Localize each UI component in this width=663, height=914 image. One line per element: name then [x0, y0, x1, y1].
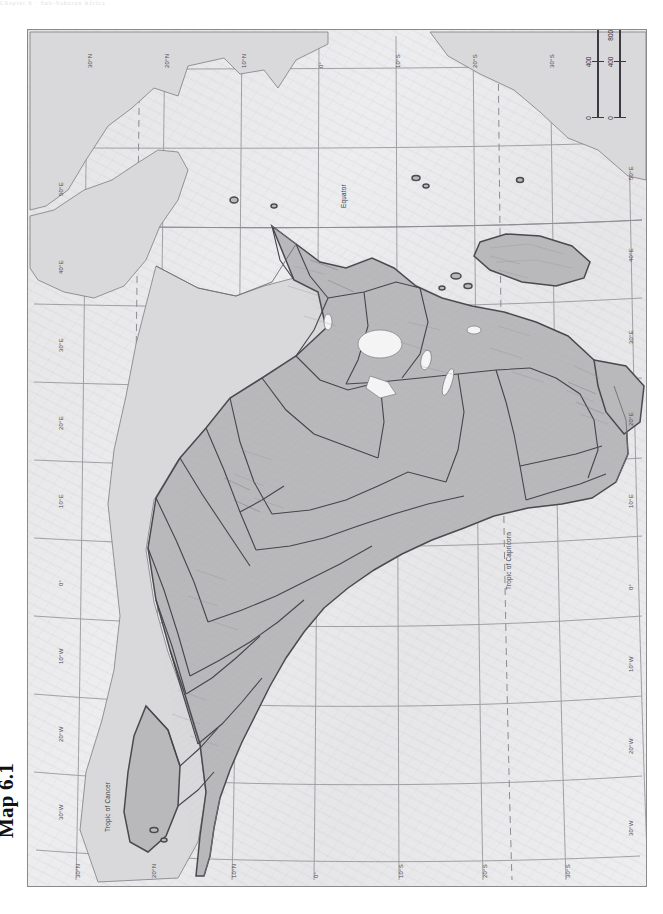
- figure-title: Map 6.1: [0, 718, 20, 838]
- lon-label-50e-right: 50°E: [628, 166, 634, 180]
- scale-bar-miles-line: [597, 29, 599, 118]
- scale-label-km-0: 0: [607, 116, 614, 120]
- lat-label-10n: 10°N: [241, 54, 247, 68]
- lon-label-10w-right: 10°W: [628, 656, 634, 672]
- label-equator: Equator: [340, 184, 347, 208]
- lon-label-10w: 10°W: [58, 648, 64, 664]
- lat-label-10n-bottom: 10°N: [231, 864, 237, 878]
- lon-label-0: 0°: [58, 580, 64, 586]
- lon-label-10e-right: 10°E: [628, 494, 634, 508]
- map-graticule-and-geography: [28, 30, 646, 886]
- scale-tick-miles-400: [592, 61, 604, 62]
- lat-label-10s-bottom: 10°S: [398, 864, 404, 878]
- label-tropic-of-cancer: Tropic of Cancer: [104, 782, 111, 832]
- scale-bar-km-line: [619, 29, 621, 118]
- scale-label-miles-400: 400: [585, 57, 592, 68]
- page-running-header: Chapter 6 · Sub-Saharan Africa: [0, 0, 663, 13]
- scale-label-miles-0: 0: [585, 116, 592, 120]
- lat-label-20n: 20°N: [164, 54, 170, 68]
- lat-label-30n: 30°N: [87, 54, 93, 68]
- lon-label-30e: 30°E: [58, 338, 64, 352]
- lon-label-20w: 20°W: [58, 726, 64, 742]
- lat-label-20n-bottom: 20°N: [151, 864, 157, 878]
- lon-label-40e: 40°E: [58, 260, 64, 274]
- scale-bar: 0 400 800 Miles 0 400 800 Kilometers: [588, 29, 630, 118]
- lat-label-0: 0°: [318, 62, 324, 68]
- scale-label-km-unit: 800 Kilometers: [607, 29, 614, 41]
- lon-label-50e: 50°E: [58, 182, 64, 196]
- lon-label-40e-right: 40°E: [628, 248, 634, 262]
- lat-label-30s-bottom: 30°S: [565, 864, 571, 878]
- scale-tick-km-400: [614, 61, 626, 62]
- lat-label-20s-bottom: 20°S: [482, 864, 488, 878]
- lon-label-0-right: 0°: [628, 584, 634, 590]
- lon-label-30e-right: 30°E: [628, 330, 634, 344]
- map-frame: Equator Tropic of Capricorn Tropic of Ca…: [27, 29, 647, 887]
- lon-label-30w-right: 30°W: [628, 820, 634, 836]
- lat-label-30n-bottom: 30°N: [75, 864, 81, 878]
- label-tropic-of-capricorn: Tropic of Capricorn: [505, 532, 512, 590]
- lat-label-10s: 10°S: [395, 54, 401, 68]
- lon-label-30w: 30°W: [58, 804, 64, 820]
- scale-tick-miles-0: [592, 117, 604, 118]
- lon-label-20e: 20°E: [58, 416, 64, 430]
- lon-label-20w-right: 20°W: [628, 738, 634, 754]
- scale-tick-km-0: [614, 117, 626, 118]
- lat-label-30s: 30°S: [549, 54, 555, 68]
- scale-label-km-400: 400: [607, 57, 614, 68]
- lon-label-10e: 10°E: [58, 494, 64, 508]
- lat-label-0-bottom: 0°: [313, 872, 319, 878]
- scale-bar-kilometers: 0 400 800 Kilometers: [610, 29, 630, 118]
- lat-label-20s: 20°S: [472, 54, 478, 68]
- lon-label-20e-right: 20°E: [628, 412, 634, 426]
- scale-bar-miles: 0 400 800 Miles: [588, 29, 608, 118]
